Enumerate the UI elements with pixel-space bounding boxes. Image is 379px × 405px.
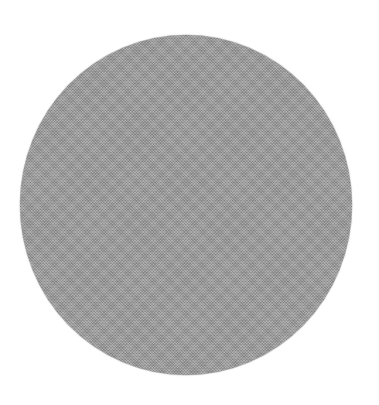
canvas xyxy=(0,0,379,405)
gray-circle xyxy=(20,35,352,375)
